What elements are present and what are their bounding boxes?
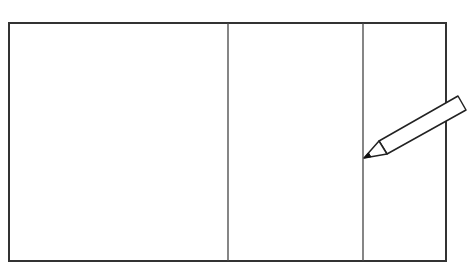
pencil-icon (364, 96, 466, 158)
pencil-body (379, 96, 466, 154)
diagram-canvas (0, 0, 475, 273)
